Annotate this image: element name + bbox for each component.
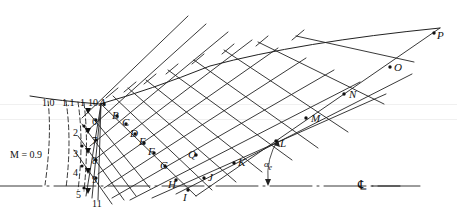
point-label-j: J bbox=[208, 172, 213, 183]
station-number-8: 8 bbox=[92, 156, 97, 166]
alpha-subscript: e bbox=[269, 163, 272, 172]
point-label-o: O bbox=[394, 62, 402, 73]
mach-line-0-9 bbox=[45, 101, 49, 185]
point-label-l: L bbox=[280, 138, 286, 149]
point-label-p: P bbox=[437, 30, 444, 41]
upper-wall-contour bbox=[30, 28, 440, 104]
point-label-b: B bbox=[112, 110, 119, 121]
diagram-canvas bbox=[0, 0, 457, 216]
station-number-6: 6 bbox=[92, 117, 97, 127]
point-label-e: E bbox=[139, 136, 146, 147]
station-number-11: 11 bbox=[92, 199, 102, 209]
mach-label-4: 10 bbox=[88, 98, 98, 108]
point-label-d: D bbox=[130, 128, 138, 139]
point-label-h: H bbox=[168, 179, 176, 190]
point-label-k: K bbox=[238, 157, 245, 168]
angle-arrow-head bbox=[265, 179, 271, 186]
point-label-c: C bbox=[122, 117, 129, 128]
mach-label-2: 1.1 bbox=[62, 98, 75, 108]
point-label-f: F bbox=[148, 146, 155, 157]
station-number-9: 9 bbox=[92, 175, 97, 185]
mach-label-1: 1.0 bbox=[42, 98, 55, 108]
station-number-5: 5 bbox=[76, 190, 81, 200]
station-number-2: 2 bbox=[73, 128, 78, 138]
centerline-symbol: ℄ bbox=[358, 178, 366, 191]
mach-label-0: M = 0.9 bbox=[10, 150, 42, 160]
point-label-a: A bbox=[99, 97, 106, 108]
mach-label-3: 1 bbox=[80, 98, 85, 108]
point-label-i: I bbox=[183, 192, 187, 203]
point-label-q: Q bbox=[188, 149, 196, 160]
station-number-3: 3 bbox=[73, 149, 78, 159]
mach-line-1-0 bbox=[66, 101, 69, 188]
point-label-g: G bbox=[160, 160, 168, 171]
point-label-m: M bbox=[311, 113, 320, 124]
point-label-n: N bbox=[349, 89, 356, 100]
exit-angle-label: αe bbox=[264, 160, 272, 171]
station-number-4: 4 bbox=[73, 168, 78, 178]
nozzle-characteristics-diagram: M = 0.9 1.0 1.1 1 10 A B C D E F G H I J… bbox=[0, 0, 457, 216]
station-number-7: 7 bbox=[92, 136, 97, 146]
